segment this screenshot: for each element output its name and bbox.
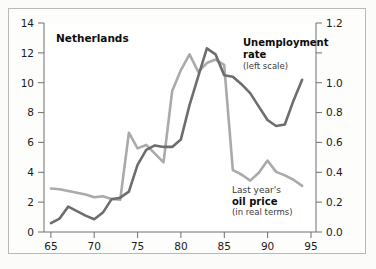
right-tick-label-08: 0.8: [326, 106, 343, 118]
x-tick-label-65: 65: [44, 240, 57, 252]
x-tick-label-80: 80: [174, 240, 187, 252]
x-tick-label-85: 85: [218, 240, 231, 252]
x-tick-label-90: 90: [261, 240, 274, 252]
right-tick-label-10: 1.0: [326, 77, 343, 89]
right-axis-ticks: [316, 23, 322, 232]
unemployment-annotation-line2: rate: [243, 49, 266, 60]
x-axis-ticks: [51, 232, 311, 238]
oil-price-annotation-line3: (in real terms): [232, 207, 293, 217]
unemployment-annotation-line1: Unemployment: [243, 37, 329, 48]
x-tick-label-75: 75: [131, 240, 144, 252]
left-tick-label-0: 0: [27, 226, 34, 238]
unemployment-annotation-line3: (left scale): [243, 61, 288, 71]
chart-title: Netherlands: [56, 32, 129, 44]
left-tick-label-6: 6: [27, 136, 34, 148]
left-axis-labels: 0 2 4 6 8 10 12 14: [21, 17, 35, 238]
x-axis-labels: 65 70 75 80 85 90 95: [44, 240, 317, 252]
right-tick-label-04: 0.4: [326, 166, 343, 178]
right-tick-label-02: 0.2: [326, 196, 343, 208]
right-tick-label-00: 0.0: [326, 226, 343, 238]
left-tick-label-14: 14: [21, 17, 35, 29]
oil-price-annotation-line2: oil price: [232, 196, 278, 207]
x-tick-label-70: 70: [88, 240, 101, 252]
right-axis-labels: 0.0 0.2 0.4 0.6 0.8 1.0 1.2: [326, 17, 343, 238]
left-tick-label-10: 10: [21, 77, 34, 89]
left-tick-label-8: 8: [27, 106, 34, 118]
left-tick-label-4: 4: [27, 166, 34, 178]
x-tick-label-95: 95: [304, 240, 317, 252]
figure-canvas: 0 2 4 6 8 10 12 14 0.0 0.2 0.4 0.6 0.8 1: [0, 0, 376, 269]
left-axis-ticks: [38, 23, 44, 232]
right-tick-label-06: 0.6: [326, 136, 343, 148]
line-chart: 0 2 4 6 8 10 12 14 0.0 0.2 0.4 0.6 0.8 1: [0, 0, 376, 269]
left-tick-label-2: 2: [27, 196, 34, 208]
oil-price-annotation-line1: Last year's: [232, 185, 281, 195]
right-tick-label-12: 1.2: [326, 17, 343, 29]
left-tick-label-12: 12: [21, 47, 34, 59]
